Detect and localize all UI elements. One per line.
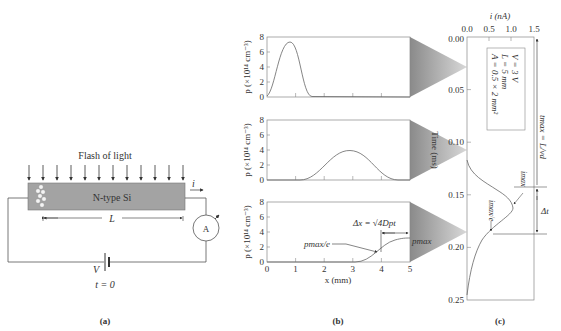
x-tick: 3	[351, 264, 356, 274]
param-area: A = 0.5 × 2 mm²	[490, 53, 500, 114]
flash-label: Flash of light	[78, 150, 132, 161]
tmax-annotation: tmax = L/vd	[538, 115, 548, 160]
panel-a-label: (a)	[100, 316, 111, 326]
x-tick: 1.0	[505, 24, 517, 34]
figure-canvas: Flash of light N-type Si i	[0, 0, 561, 331]
y-axis-label: p (×10¹⁴ cm⁻³)	[242, 205, 252, 258]
pmax-annotation: pmax	[411, 236, 432, 246]
y-tick: 0.20	[448, 242, 464, 252]
y-tick: 4	[260, 62, 265, 72]
current-label: i	[192, 178, 195, 189]
y-tick: 6	[260, 47, 265, 57]
y-tick: 0	[260, 92, 265, 102]
bar-label: N-type Si	[93, 192, 132, 203]
x-tick: 0	[265, 264, 270, 274]
dt-annotation: Δt	[540, 206, 549, 216]
y-tick: 0.25	[448, 295, 464, 305]
y-tick: 2	[260, 242, 265, 252]
y-tick: 2	[260, 160, 265, 170]
time-axis-label: Time (ms)	[430, 131, 440, 168]
y-tick: 4	[260, 145, 265, 155]
y-tick: 0.00	[448, 34, 464, 44]
light-arrows	[29, 165, 183, 180]
panel-c-label: (c)	[495, 316, 505, 326]
y-axis-label: p (×10¹⁴ cm⁻³)	[242, 123, 252, 176]
x-tick: 0.5	[483, 24, 495, 34]
y-tick: 6	[260, 130, 265, 140]
profile-plot-1: 0 2 4 6 8 p (×10¹⁴ cm⁻³)	[242, 32, 410, 102]
y-axis-label: p (×10¹⁴ cm⁻³)	[242, 40, 252, 93]
y-tick: 0.15	[448, 190, 464, 200]
y-tick: 8	[260, 197, 265, 207]
x-tick: 4	[379, 264, 384, 274]
param-voltage: V = 3 V	[510, 54, 520, 84]
x-tick: 5	[408, 264, 413, 274]
dx-annotation: Δx = √4Dpt	[352, 218, 396, 228]
y-tick: 0	[260, 257, 265, 267]
y-tick: 6	[260, 212, 265, 222]
length-label: L	[108, 213, 115, 224]
current-axis-label: i (nA)	[490, 11, 511, 21]
param-length: L = 5 mm	[500, 53, 510, 90]
y-tick: 8	[260, 32, 265, 42]
battery-icon	[105, 253, 109, 271]
x-tick: 1.5	[528, 24, 540, 34]
y-tick: 0.10	[448, 137, 464, 147]
panel-b: 0 2 4 6 8 p (×10¹⁴ cm⁻³) 0 2 4 6 8	[242, 32, 467, 326]
projection-cone-3	[410, 202, 467, 262]
x-tick: 1	[293, 264, 298, 274]
x-tick: 0.0	[461, 24, 473, 34]
imax-annotation: imax	[519, 171, 528, 187]
ammeter-label: A	[203, 224, 210, 234]
imax-pointer-icon	[514, 193, 523, 204]
profile-plot-3: 0 2 4 6 8 p (×10¹⁴ cm⁻³) 0 1 2 3 4 5 x (…	[242, 197, 432, 285]
panel-b-label: (b)	[333, 316, 344, 326]
x-axis-label: x (mm)	[325, 275, 352, 285]
y-tick: 2	[260, 77, 265, 87]
y-tick: 8	[260, 115, 265, 125]
y-tick: 0.05	[448, 85, 464, 95]
time-zero-label: t = 0	[95, 279, 115, 290]
imax-e-annotation: imax/e	[487, 200, 496, 222]
panel-a: Flash of light N-type Si i	[8, 150, 219, 326]
profile-plot-2: 0 2 4 6 8 p (×10¹⁴ cm⁻³)	[242, 115, 410, 185]
current-curve	[467, 160, 513, 295]
panel-c: i (nA) 0.0 0.5 1.0 1.5 0.00 0.05 0.10 0.…	[448, 11, 549, 326]
voltage-label: V	[93, 264, 101, 275]
x-tick: 2	[322, 264, 327, 274]
pmax-e-annotation: pmax/e	[303, 239, 330, 249]
y-tick: 4	[260, 227, 265, 237]
y-tick: 0	[260, 175, 265, 185]
